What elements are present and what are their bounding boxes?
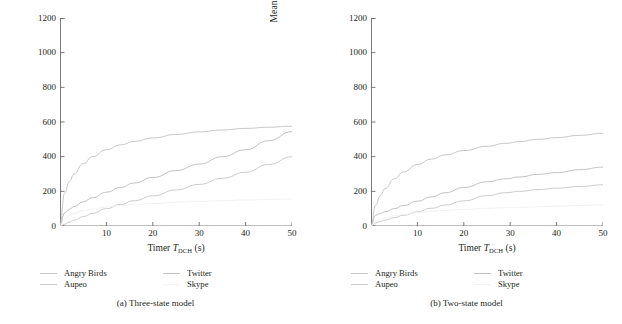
x-axis-label-prefix-a: Timer bbox=[147, 243, 172, 253]
x-axis-label-b: Timer TDCH (s) bbox=[371, 243, 603, 254]
legend-label: Twitter bbox=[498, 269, 523, 278]
y-axis-label-b: Mean power consumption (mW) bbox=[269, 0, 279, 54]
legend-b: Angry BirdsTwitterAupeoSkype bbox=[351, 268, 589, 290]
y-tick-label: 200 bbox=[16, 187, 56, 196]
legend-swatch-icon bbox=[40, 273, 57, 274]
x-axis-ticks-a: 1020304050 bbox=[60, 229, 292, 243]
legend-label: Angry Birds bbox=[64, 269, 107, 278]
x-tick-label: 10 bbox=[91, 229, 121, 238]
caption-a: (a) Three-state model bbox=[0, 298, 311, 308]
legend-swatch-icon bbox=[40, 284, 57, 285]
y-tick-label: 1000 bbox=[16, 48, 56, 57]
legend-swatch-icon bbox=[351, 273, 368, 274]
y-tick-label: 1000 bbox=[327, 48, 367, 57]
legend-label: Aupeo bbox=[64, 280, 87, 289]
series-line-angry-birds bbox=[371, 133, 603, 226]
axis-spine bbox=[61, 18, 293, 226]
y-tick-label: 1200 bbox=[16, 14, 56, 23]
y-tick-label: 600 bbox=[327, 118, 367, 127]
x-tick-label: 40 bbox=[231, 229, 261, 238]
y-axis-ticks-a: 120010008006004002000 bbox=[12, 18, 56, 226]
legend-label: Skype bbox=[187, 280, 208, 289]
plot-area-a bbox=[60, 18, 292, 226]
series-line-skype bbox=[60, 199, 292, 226]
legend-item-twitter[interactable]: Twitter bbox=[163, 268, 268, 279]
chart-panel-b: Mean power consumption (mW) 120010008006… bbox=[311, 0, 622, 324]
x-tick-label: 30 bbox=[495, 229, 525, 238]
series-line-twitter bbox=[371, 167, 603, 226]
caption-b: (b) Two-state model bbox=[311, 298, 622, 308]
legend-swatch-icon bbox=[163, 284, 180, 285]
y-tick-label: 600 bbox=[16, 118, 56, 127]
series-line-aupeo bbox=[60, 157, 292, 226]
plot-svg-b bbox=[371, 18, 603, 226]
plot-svg-a bbox=[60, 18, 292, 226]
y-tick-label: 0 bbox=[16, 222, 56, 231]
legend-swatch-icon bbox=[474, 273, 491, 274]
legend-swatch-icon bbox=[474, 284, 491, 285]
x-tick-label: 50 bbox=[588, 229, 618, 238]
legend-a: Angry BirdsTwitterAupeoSkype bbox=[40, 268, 278, 290]
legend-item-twitter[interactable]: Twitter bbox=[474, 268, 579, 279]
legend-item-angry-birds[interactable]: Angry Birds bbox=[40, 268, 145, 279]
x-axis-label-a: Timer TDCH (s) bbox=[60, 243, 292, 254]
y-axis-ticks-b: 120010008006004002000 bbox=[323, 18, 367, 226]
y-tick-label: 800 bbox=[327, 83, 367, 92]
series-line-angry-birds bbox=[60, 126, 292, 226]
legend-item-aupeo[interactable]: Aupeo bbox=[40, 279, 145, 290]
x-tick-label: 20 bbox=[449, 229, 479, 238]
plot-area-b bbox=[371, 18, 603, 226]
x-axis-ticks-b: 1020304050 bbox=[371, 229, 603, 243]
chart-panel-a: Mean power consumption (mW) 120010008006… bbox=[0, 0, 311, 324]
x-tick-label: 40 bbox=[542, 229, 572, 238]
y-tick-label: 1200 bbox=[327, 14, 367, 23]
x-tick-label: 10 bbox=[402, 229, 432, 238]
x-axis-label-prefix-b: Timer bbox=[458, 243, 483, 253]
x-axis-label-subscript-b: DCH bbox=[489, 247, 503, 254]
legend-item-skype[interactable]: Skype bbox=[163, 279, 268, 290]
legend-item-skype[interactable]: Skype bbox=[474, 279, 579, 290]
x-tick-label: 50 bbox=[277, 229, 307, 238]
legend-label: Angry Birds bbox=[375, 269, 418, 278]
y-tick-label: 400 bbox=[327, 152, 367, 161]
x-tick-label: 30 bbox=[184, 229, 214, 238]
x-axis-label-subscript-a: DCH bbox=[178, 247, 192, 254]
x-tick-label: 20 bbox=[138, 229, 168, 238]
legend-item-angry-birds[interactable]: Angry Birds bbox=[351, 268, 456, 279]
legend-item-aupeo[interactable]: Aupeo bbox=[351, 279, 456, 290]
y-tick-label: 800 bbox=[16, 83, 56, 92]
series-line-twitter bbox=[60, 132, 292, 226]
figure-two-panel-chart: Mean power consumption (mW) 120010008006… bbox=[0, 0, 622, 324]
legend-label: Twitter bbox=[187, 269, 212, 278]
x-axis-label-suffix-b: (s) bbox=[503, 243, 515, 253]
axis-spine bbox=[372, 18, 604, 226]
legend-label: Skype bbox=[498, 280, 519, 289]
legend-label: Aupeo bbox=[375, 280, 398, 289]
legend-swatch-icon bbox=[163, 273, 180, 274]
x-axis-label-suffix-a: (s) bbox=[192, 243, 204, 253]
y-tick-label: 200 bbox=[327, 187, 367, 196]
legend-swatch-icon bbox=[351, 284, 368, 285]
y-tick-label: 400 bbox=[16, 152, 56, 161]
y-tick-label: 0 bbox=[327, 222, 367, 231]
